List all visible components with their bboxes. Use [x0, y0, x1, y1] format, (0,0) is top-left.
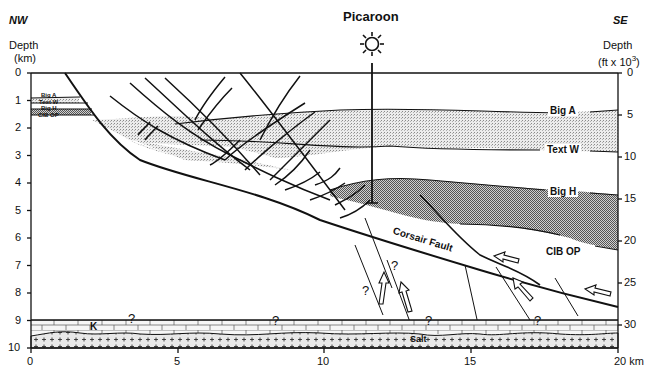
left-tick: 2 [15, 121, 21, 133]
left-tick: 8 [15, 286, 21, 298]
uncertainty-mark: ? [425, 313, 432, 328]
uncertainty-mark: ? [272, 313, 279, 328]
inset-big-a-label: Big A [41, 92, 56, 98]
left-tick: 5 [15, 204, 21, 216]
cross-section-figure: NW SE Picaroon Depth (km) Depth (ft x 10… [0, 0, 655, 374]
right-axis-title-line1: Depth [598, 39, 640, 52]
left-axis-title: Depth (km) [9, 39, 38, 65]
nw-direction-label: NW [9, 14, 27, 26]
well-name-label: Picaroon [343, 9, 399, 24]
salt-top [31, 332, 618, 348]
left-tick: 3 [15, 149, 21, 161]
uncertainty-mark: ? [391, 258, 398, 273]
left-tick: 7 [15, 259, 21, 271]
arrow-icon [494, 252, 519, 263]
right-tick: 20 [624, 234, 636, 246]
right-axis-close-paren: ) [636, 56, 640, 68]
left-tick: 10 [8, 341, 20, 353]
big-h-label: Big H [548, 186, 578, 197]
deep-faults [355, 218, 578, 324]
inset-cib-op-label: CIB OP [38, 112, 59, 118]
left-tick: 0 [15, 66, 21, 78]
inset-big-h-label: Big H [41, 105, 57, 111]
bottom-tick: 20 km [614, 355, 644, 367]
bottom-tick: 10 [317, 355, 329, 367]
uncertainty-mark: ? [534, 313, 541, 328]
left-axis-title-line2: (km) [9, 52, 38, 65]
k-unit-label: K [88, 321, 99, 332]
left-axis-title-line1: Depth [9, 39, 38, 52]
cib-op-label: CIB OP [544, 246, 582, 257]
bottom-tick: 5 [174, 355, 180, 367]
right-axis-title: Depth (ft x 103) [598, 39, 640, 69]
uncertainty-mark: ? [128, 311, 135, 326]
right-tick: 25 [624, 276, 636, 288]
se-direction-label: SE [613, 14, 628, 26]
right-tick: 5 [627, 108, 633, 120]
arrow-icon [585, 285, 611, 296]
text-w-label: Text W [545, 144, 581, 155]
left-tick: 4 [15, 176, 21, 188]
right-axis-title-line2: (ft x 103) [598, 52, 640, 69]
uncertainty-mark: ? [362, 283, 369, 298]
sun-wellhead-icon [360, 32, 384, 56]
bottom-tick: 15 [464, 355, 476, 367]
right-tick: 0 [627, 66, 633, 78]
left-tick: 9 [15, 314, 21, 326]
bottom-tick: 0 [27, 355, 33, 367]
big-a-label: Big A [548, 105, 578, 116]
right-tick: 15 [624, 192, 636, 204]
right-tick: 10 [624, 150, 636, 162]
k-carbonate-layer [31, 320, 618, 334]
right-tick: 30 [624, 318, 636, 330]
left-tick: 1 [15, 94, 21, 106]
left-tick: 6 [15, 231, 21, 243]
salt-unit-label: Salt [408, 334, 429, 344]
